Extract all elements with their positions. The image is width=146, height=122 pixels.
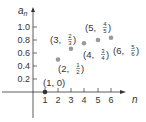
y-tick-label: 1.0 (17, 22, 30, 32)
svg-text:1: 1 (76, 62, 80, 68)
y-axis-label: an (18, 5, 28, 17)
x-tick-label: 4 (81, 95, 86, 105)
x-ticks: 1 2 3 4 5 6 (42, 88, 113, 105)
svg-text:4: 4 (103, 21, 107, 27)
data-point (82, 41, 87, 46)
svg-text:): ) (81, 63, 84, 74)
x-tick-label: 5 (95, 95, 100, 105)
svg-text:): ) (106, 49, 109, 60)
y-tick-label: 0.6 (17, 48, 30, 58)
y-tick-label: 0.4 (17, 61, 30, 71)
svg-text:5: 5 (131, 44, 135, 50)
point-label: (6, (113, 45, 124, 56)
x-axis-label: n (132, 94, 138, 105)
svg-text:2: 2 (68, 33, 72, 39)
y-tick-label: 0.8 (17, 35, 30, 45)
point-label: (1, 0) (43, 77, 65, 88)
point-label: (4, (83, 49, 94, 60)
x-tick-label: 6 (108, 95, 113, 105)
data-point (43, 90, 48, 95)
svg-text:5: 5 (103, 28, 107, 34)
point-labels: (1, 0) (2, 1 2 ) (3, 2 3 ) (4, 3 4 ) (5,… (43, 21, 139, 88)
x-axis-arrow-icon (120, 90, 126, 94)
x-tick-label: 3 (68, 95, 73, 105)
svg-text:2: 2 (76, 69, 80, 75)
svg-text:3: 3 (68, 40, 72, 46)
y-tick-label: 0.2 (17, 74, 30, 84)
svg-text:4: 4 (101, 55, 105, 61)
point-label: (2, (58, 63, 69, 74)
x-tick-label: 2 (55, 95, 60, 105)
point-label: (3, (50, 34, 61, 45)
svg-text:3: 3 (101, 48, 105, 54)
chart: an n 1.0 0.8 0.6 0.4 0.2 1 2 3 4 5 6 (0, 0, 146, 122)
x-tick-label: 1 (42, 95, 47, 105)
data-point (56, 57, 61, 62)
data-point (109, 36, 114, 41)
point-label: (5, (85, 22, 96, 33)
data-point (69, 46, 74, 51)
y-ticks: 1.0 0.8 0.6 0.4 0.2 (17, 22, 37, 84)
svg-text:): ) (73, 34, 76, 45)
svg-text:): ) (108, 22, 111, 33)
svg-text:6: 6 (131, 51, 135, 57)
y-axis-arrow-icon (31, 7, 35, 12)
svg-text:): ) (136, 45, 139, 56)
data-point (96, 38, 101, 43)
